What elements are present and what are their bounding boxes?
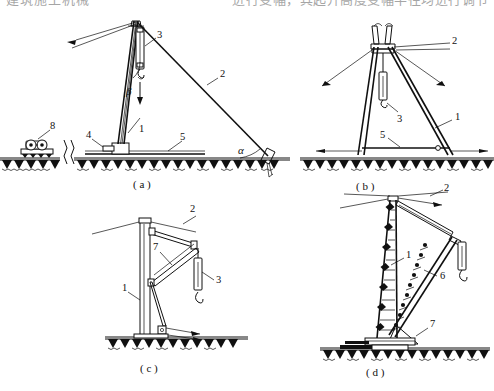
- panel-c-callout-2: 2: [190, 203, 195, 214]
- panel-c-callout-1: 1: [122, 282, 127, 293]
- panel-a-anchor: [240, 148, 275, 177]
- panel-a-angle-beta: β: [125, 85, 132, 97]
- panel-d-callout-6: 6: [440, 270, 445, 281]
- panel-a-caption: ( a ): [133, 178, 151, 191]
- panel-a-callout-3: 3: [157, 29, 162, 40]
- figure-drawing: 8 5 4 1: [0, 0, 494, 391]
- panel-b-ground-tie: [316, 138, 488, 153]
- panel-a-callout-2: 2: [220, 68, 225, 79]
- panel-c: 1 2 7: [92, 203, 248, 375]
- panel-b: 1 2: [300, 24, 494, 194]
- panel-a: 8 5 4 1: [0, 21, 290, 191]
- panel-a-callout-5: 5: [180, 131, 185, 142]
- panel-c-caption: ( c ): [140, 362, 158, 375]
- panel-b-callout-3: 3: [397, 113, 402, 124]
- panel-d-pendant: [396, 201, 453, 236]
- figure-sheet: 建筑施工机械 进行变幅，其起升高度变幅半径均进行调节: [0, 0, 494, 391]
- panel-a-base-shoe: [92, 139, 129, 154]
- panel-d-head-guys: [340, 190, 448, 208]
- panel-d: 1 2: [320, 182, 490, 379]
- panel-d-callout-2: 2: [444, 182, 449, 193]
- panel-d-callout-7: 7: [430, 318, 435, 329]
- panel-a-callout-1: 1: [139, 123, 144, 134]
- panel-b-callout-2: 2: [452, 35, 457, 46]
- panel-d-callout-1: 1: [406, 249, 411, 260]
- panel-b-callout-1: 1: [455, 111, 460, 122]
- panel-d-hook: [449, 236, 467, 281]
- panel-a-callout-4: 4: [86, 129, 92, 140]
- panel-a-upper-guys: [67, 22, 136, 48]
- panel-c-callout-7: 7: [153, 241, 158, 252]
- panel-b-ground: [300, 158, 494, 171]
- panel-a-winch: [21, 130, 53, 158]
- panel-b-head: [371, 24, 395, 54]
- panel-c-ground: [105, 337, 248, 350]
- panel-c-mast: [128, 218, 151, 337]
- panel-b-legs: [358, 47, 453, 155]
- panel-b-tackle: [379, 53, 398, 112]
- panel-a-angle-alpha: α: [238, 144, 244, 156]
- panel-a-callout-8: 8: [50, 120, 55, 131]
- panel-d-base: [340, 325, 428, 350]
- panel-b-caption: ( b ): [356, 180, 375, 193]
- panel-a-main-guy: [137, 22, 268, 156]
- panel-c-tackle: [194, 248, 214, 303]
- panel-c-callout-3: 3: [216, 274, 221, 285]
- panel-d-boom: [389, 237, 457, 337]
- panel-d-caption: ( d ): [366, 366, 385, 379]
- panel-b-callout-5: 5: [380, 129, 385, 140]
